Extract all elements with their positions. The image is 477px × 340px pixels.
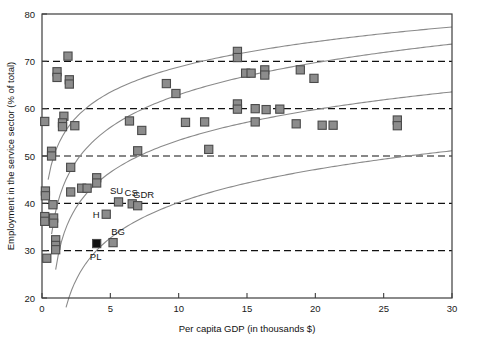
data-point (41, 192, 49, 200)
y-tick-label-60: 60 (24, 103, 35, 114)
data-point (52, 246, 60, 254)
x-tick-label-20: 20 (310, 303, 321, 314)
data-point (251, 105, 259, 113)
y-tick-label-20: 20 (24, 293, 35, 304)
data-point (67, 163, 75, 171)
x-axis-ticks: 051015202530 (39, 293, 457, 314)
data-point (64, 52, 72, 60)
x-tick-label-5: 5 (108, 303, 113, 314)
data-point (41, 117, 49, 125)
y-axis-title: Employment in the service sector (% of t… (5, 62, 16, 251)
data-point-PL (93, 239, 101, 247)
data-point (134, 147, 142, 155)
data-point (47, 152, 55, 160)
data-point (205, 145, 213, 153)
data-point-GDR (134, 202, 142, 210)
y-tick-label-50: 50 (24, 151, 35, 162)
data-point (138, 126, 146, 134)
data-point (318, 121, 326, 129)
data-point (247, 69, 255, 77)
data-points (41, 47, 402, 262)
x-tick-label-0: 0 (39, 303, 44, 314)
data-point (201, 118, 209, 126)
data-point (329, 121, 337, 129)
point-label-SU: SU (110, 185, 123, 196)
y-tick-label-70: 70 (24, 56, 35, 67)
point-label-H: H (93, 209, 100, 220)
point-label-GDR: GDR (133, 189, 154, 200)
data-point (262, 106, 270, 114)
data-point (58, 123, 66, 131)
data-point (233, 53, 241, 61)
x-tick-label-10: 10 (173, 303, 184, 314)
data-point (83, 184, 91, 192)
data-point (251, 118, 259, 126)
data-point (71, 122, 79, 130)
data-point-BG (109, 239, 117, 247)
data-point (125, 117, 133, 125)
point-label-BG: BG (111, 226, 125, 237)
data-point (261, 71, 269, 79)
data-point (172, 89, 180, 97)
data-point (276, 105, 284, 113)
data-point (65, 80, 73, 88)
x-tick-label-25: 25 (378, 303, 389, 314)
x-tick-label-30: 30 (447, 303, 458, 314)
data-point (49, 201, 57, 209)
data-point (162, 79, 170, 87)
scatter-plot: 051015202530 20304050607080 PLBGHSUCSGDR… (0, 0, 477, 340)
data-point (393, 122, 401, 130)
data-point (181, 118, 189, 126)
point-labels: PLBGHSUCSGDR (90, 185, 155, 262)
point-label-PL: PL (90, 251, 102, 262)
y-tick-label-30: 30 (24, 245, 35, 256)
data-point (50, 219, 58, 227)
data-point-H (102, 210, 110, 218)
data-point (296, 66, 304, 74)
data-point (43, 254, 51, 262)
data-point (310, 74, 318, 82)
data-point (67, 188, 75, 196)
curve-upper (48, 27, 452, 180)
chart-container: 051015202530 20304050607080 PLBGHSUCSGDR… (0, 0, 477, 340)
data-point (41, 217, 49, 225)
gridlines (42, 61, 452, 250)
y-tick-label-40: 40 (24, 198, 35, 209)
y-tick-label-80: 80 (24, 9, 35, 20)
data-point (292, 120, 300, 128)
x-tick-label-15: 15 (242, 303, 253, 314)
data-point (53, 73, 61, 81)
data-point (233, 105, 241, 113)
data-point-SU (114, 198, 122, 206)
data-point (93, 179, 101, 187)
x-axis-title: Per capita GDP (in thousands $) (179, 323, 316, 334)
